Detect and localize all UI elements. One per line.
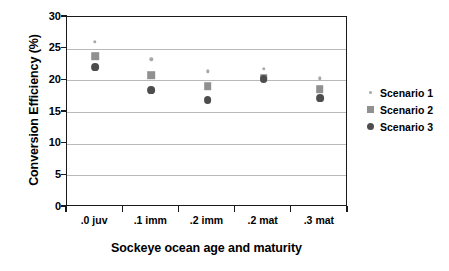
x-tick-mark-3 [234,206,235,212]
x-tick-mark-4 [290,206,291,212]
data-point-scenario-2-4 [316,85,324,93]
data-point-scenario-3-4 [316,94,324,102]
data-point-scenario-1-0 [93,40,96,43]
y-tick-label-5: 5 [21,169,61,180]
data-point-scenario-1-2 [206,70,209,73]
data-point-scenario-3-3 [260,75,268,83]
gridline-10 [67,144,346,145]
gridline-25 [67,49,346,50]
data-point-scenario-3-1 [147,87,155,95]
legend-marker-icon-3 [367,123,375,131]
y-tick-label-25: 25 [21,42,61,53]
gridline-5 [67,175,346,176]
gridline-20 [67,80,346,81]
legend-marker-icon-1 [369,91,372,94]
x-tick-mark-0 [65,206,66,212]
legend-marker-icon-2 [367,106,375,114]
x-tick-label--3-mat: .3 mat [284,214,354,226]
y-tick-label-10: 10 [21,137,61,148]
legend-swatch-container-3 [364,123,377,131]
legend-item-scenario-2: Scenario 2 [364,101,449,118]
y-tick-label-15: 15 [21,106,61,117]
x-axis-title: Sockeye ocean age and maturity [40,241,373,255]
x-tick-mark-5 [346,206,347,212]
data-point-scenario-3-0 [91,63,99,71]
legend-label-1: Scenario 1 [380,87,433,99]
x-tick-mark-2 [178,206,179,212]
chart-legend: Scenario 1Scenario 2Scenario 3 [364,84,449,135]
chart-figure: Conversion Efficiency (%) 051015202530 .… [0,0,449,271]
plot-area [66,16,347,206]
y-tick-label-0: 0 [21,201,61,212]
x-tick-mark-1 [122,206,123,212]
y-tick-label-20: 20 [21,74,61,85]
data-point-scenario-1-3 [262,67,265,70]
legend-item-scenario-3: Scenario 3 [364,118,449,135]
data-point-scenario-2-0 [91,52,99,60]
data-point-scenario-3-2 [204,96,212,104]
legend-item-scenario-1: Scenario 1 [364,84,449,101]
legend-swatch-container-1 [364,91,377,94]
data-point-scenario-2-1 [148,71,156,79]
y-tick-label-30: 30 [21,11,61,22]
legend-swatch-container-2 [364,106,377,114]
data-point-scenario-1-1 [150,58,153,61]
data-point-scenario-2-2 [204,82,212,90]
gridline-15 [67,112,346,113]
legend-label-2: Scenario 2 [380,104,433,116]
legend-label-3: Scenario 3 [380,121,433,133]
